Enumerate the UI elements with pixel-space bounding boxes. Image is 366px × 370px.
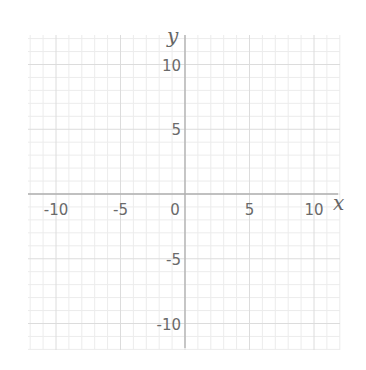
axes: [28, 35, 338, 348]
x-tick-label: 0: [170, 201, 180, 219]
y-tick-label: -5: [166, 251, 181, 269]
x-tick-label: -5: [113, 201, 128, 219]
y-tick-label: -10: [157, 316, 182, 334]
y-tick-label: 10: [162, 57, 181, 75]
tick-labels: -10-50510-10-5510: [44, 57, 324, 334]
x-axis-label: x: [333, 191, 344, 215]
coordinate-plane: -10-50510-10-5510 x y: [0, 0, 366, 370]
x-tick-label: 5: [245, 201, 255, 219]
y-tick-label: 5: [171, 121, 181, 139]
minor-grid: [28, 35, 340, 350]
major-grid: [28, 35, 340, 350]
x-tick-label: -10: [44, 201, 69, 219]
y-axis-label: y: [166, 24, 179, 48]
x-tick-label: 10: [304, 201, 323, 219]
